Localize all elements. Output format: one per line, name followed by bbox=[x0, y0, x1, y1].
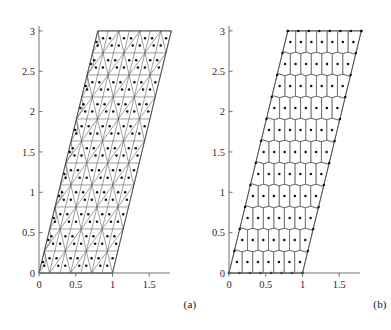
svg-text:2.5: 2.5 bbox=[212, 66, 225, 77]
svg-text:3: 3 bbox=[30, 26, 35, 37]
svg-text:0.5: 0.5 bbox=[22, 227, 35, 238]
svg-text:0.5: 0.5 bbox=[259, 279, 272, 290]
svg-text:0.5: 0.5 bbox=[69, 279, 82, 290]
svg-text:1.5: 1.5 bbox=[333, 279, 346, 290]
svg-text:2: 2 bbox=[220, 106, 225, 117]
svg-text:1: 1 bbox=[110, 279, 115, 290]
svg-text:2: 2 bbox=[30, 106, 35, 117]
svg-text:1: 1 bbox=[220, 187, 225, 198]
svg-text:0.5: 0.5 bbox=[212, 227, 225, 238]
panel-a: 00.511.500.511.522.53 bbox=[0, 0, 190, 330]
svg-text:1: 1 bbox=[30, 187, 35, 198]
svg-text:0: 0 bbox=[220, 268, 225, 279]
svg-text:0: 0 bbox=[36, 279, 41, 290]
svg-text:1.5: 1.5 bbox=[143, 279, 156, 290]
svg-text:1.5: 1.5 bbox=[22, 147, 35, 158]
panel-b-plot: 00.511.500.511.522.53 bbox=[190, 0, 380, 330]
svg-text:3: 3 bbox=[220, 26, 225, 37]
svg-text:1: 1 bbox=[300, 279, 305, 290]
svg-text:0: 0 bbox=[226, 279, 231, 290]
svg-text:2.5: 2.5 bbox=[22, 66, 35, 77]
panel-a-plot: 00.511.500.511.522.53 bbox=[0, 0, 190, 330]
svg-text:1.5: 1.5 bbox=[212, 147, 225, 158]
panel-b-caption: (b) bbox=[190, 298, 391, 310]
svg-text:0: 0 bbox=[30, 268, 35, 279]
panel-b: 00.511.500.511.522.53 bbox=[190, 0, 380, 330]
